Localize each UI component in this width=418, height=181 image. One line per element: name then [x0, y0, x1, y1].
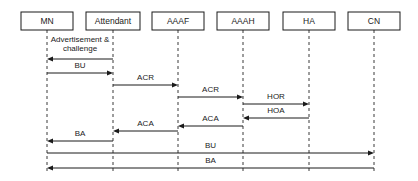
- participant-label-aaah: AAAH: [231, 16, 254, 26]
- messages-layer: Advertisement &challengeBUACRACRHORHOAAC…: [47, 35, 374, 170]
- message-arrowhead-m9: [47, 138, 53, 143]
- message-m3[interactable]: ACR: [113, 73, 178, 87]
- message-arrowhead-m7: [178, 123, 184, 128]
- message-arrowhead-m10: [368, 150, 374, 155]
- message-label-m3: ACR: [137, 73, 154, 82]
- message-label-m8: ACA: [137, 119, 154, 128]
- message-label-m10: BU: [205, 141, 216, 150]
- participants-layer: MNAttendantAAAFAAAHHACN: [21, 12, 400, 30]
- participant-label-attendant: Attendant: [95, 16, 132, 26]
- sequence-diagram-canvas: Advertisement &challengeBUACRACRHORHOAAC…: [0, 0, 418, 181]
- message-label-m5: HOR: [267, 92, 285, 101]
- message-arrowhead-m5: [303, 101, 309, 106]
- message-m7[interactable]: ACA: [178, 114, 243, 128]
- participant-box-mn[interactable]: MN: [21, 12, 73, 30]
- participant-label-cn: CN: [368, 16, 380, 26]
- participant-label-ha: HA: [303, 16, 315, 26]
- message-label-m1: Advertisement &: [51, 35, 110, 44]
- participant-box-aaaf[interactable]: AAAF: [152, 12, 204, 30]
- message-label-m6: HOA: [267, 106, 285, 115]
- message-arrowhead-m11: [47, 165, 53, 170]
- message-arrowhead-m6: [243, 115, 249, 120]
- message-label-m11: BA: [205, 156, 216, 165]
- participant-label-aaaf: AAAF: [167, 16, 189, 26]
- message-arrowhead-m1: [47, 56, 53, 61]
- message-arrowhead-m8: [113, 128, 119, 133]
- message-m11[interactable]: BA: [47, 156, 374, 170]
- message-arrowhead-m4: [237, 94, 243, 99]
- participant-box-attendant[interactable]: Attendant: [86, 12, 140, 30]
- message-m4[interactable]: ACR: [178, 85, 243, 99]
- message-m10[interactable]: BU: [47, 141, 374, 155]
- sequence-diagram: Advertisement &challengeBUACRACRHORHOAAC…: [0, 0, 418, 181]
- message-arrowhead-m3: [172, 82, 178, 87]
- participant-box-cn[interactable]: CN: [348, 12, 400, 30]
- message-m5[interactable]: HOR: [243, 92, 309, 106]
- message-m1[interactable]: Advertisement &challenge: [47, 35, 113, 61]
- message-m8[interactable]: ACA: [113, 119, 178, 133]
- participant-label-mn: MN: [40, 16, 53, 26]
- message-arrowhead-m2: [107, 70, 113, 75]
- participant-box-ha[interactable]: HA: [283, 12, 335, 30]
- message-label-m1: challenge: [63, 44, 98, 53]
- message-label-m9: BA: [75, 129, 86, 138]
- message-label-m7: ACA: [202, 114, 219, 123]
- message-label-m4: ACR: [202, 85, 219, 94]
- message-label-m2: BU: [74, 61, 85, 70]
- message-m9[interactable]: BA: [47, 129, 113, 143]
- message-m2[interactable]: BU: [47, 61, 113, 75]
- participant-box-aaah[interactable]: AAAH: [217, 12, 269, 30]
- message-m6[interactable]: HOA: [243, 106, 309, 120]
